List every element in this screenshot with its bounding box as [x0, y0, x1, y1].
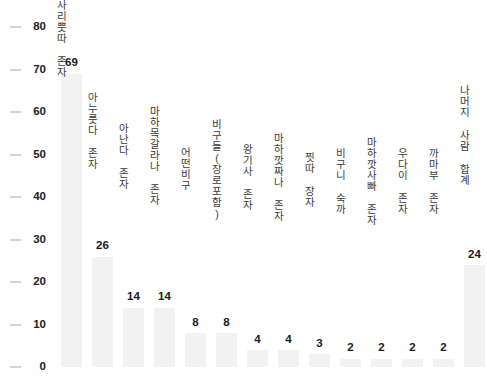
- bar[interactable]: [154, 308, 175, 368]
- plot-area: 69사리뿟따 존자26아누룻다 존자14아난다 존자14마하목갈라나 존자8어떤…: [52, 0, 487, 391]
- bar-column[interactable]: 2마하깟사빠 존자: [366, 24, 397, 367]
- y-axis-tick-mark: [10, 281, 21, 283]
- y-axis-tick-mark: [10, 26, 21, 28]
- bar-column[interactable]: 26아누룻다 존자: [87, 24, 118, 367]
- bar-chart: 01020304050607080 69사리뿟따 존자26아누룻다 존자14아난…: [0, 0, 487, 391]
- bar-column[interactable]: 69사리뿟따 존자: [56, 24, 87, 367]
- bar-value-label: 4: [242, 334, 273, 346]
- bar[interactable]: [402, 359, 423, 368]
- bar-category-label: 마하깟짜나 존자: [273, 24, 304, 331]
- y-axis-tick-mark: [10, 366, 21, 368]
- bar-value-label: 14: [118, 291, 149, 303]
- bar-value-label: 14: [149, 291, 180, 303]
- y-axis-tick-mark: [10, 324, 21, 326]
- bar[interactable]: [433, 359, 454, 368]
- bar-column[interactable]: 8비구들(장로포함): [211, 24, 242, 367]
- bar-category-label: 비구들(장로포함): [211, 24, 242, 314]
- bar-column[interactable]: 2까마부 존자: [428, 24, 459, 367]
- bar-category-label: 왕기사 존자: [242, 24, 273, 331]
- y-axis-tick: 70: [0, 63, 52, 77]
- bar[interactable]: [185, 333, 206, 367]
- bar-category-label: 어떤비구: [180, 24, 211, 314]
- bar[interactable]: [61, 74, 82, 367]
- bar-category-label: 비구니 숙까: [335, 24, 366, 340]
- bar-category-label: 마하목갈라나 존자: [149, 24, 180, 289]
- y-axis-tick: 80: [0, 20, 52, 34]
- y-axis-tick-mark: [10, 196, 21, 198]
- bar[interactable]: [123, 308, 144, 368]
- bar[interactable]: [247, 350, 268, 367]
- y-axis-tick-label: 40: [26, 191, 46, 203]
- bar-column[interactable]: 4왕기사 존자: [242, 24, 273, 367]
- bar-column[interactable]: 2우다이 존자: [397, 24, 428, 367]
- y-axis-tick: 60: [0, 105, 52, 119]
- bar[interactable]: [278, 350, 299, 367]
- bar-column[interactable]: 14마하목갈라나 존자: [149, 24, 180, 367]
- y-axis-tick-mark: [10, 154, 21, 156]
- y-axis-tick: 10: [0, 318, 52, 332]
- bar-category-label: 사리뿟따 존자: [56, 24, 87, 55]
- bar-column[interactable]: 3찟따 장자: [304, 24, 335, 367]
- bar-value-label: 26: [87, 240, 118, 252]
- y-axis-tick-label: 60: [26, 106, 46, 118]
- bar-column[interactable]: 14아난다 존자: [118, 24, 149, 367]
- bar-value-label: 8: [180, 317, 211, 329]
- bar[interactable]: [464, 265, 485, 367]
- bar-value-label: 2: [335, 342, 366, 354]
- y-axis-tick-label: 50: [26, 149, 46, 161]
- bar-category-label: 아난다 존자: [118, 24, 149, 289]
- y-axis-tick-mark: [10, 239, 21, 241]
- bar-category-label: 마하깟사빠 존자: [366, 24, 397, 340]
- bar[interactable]: [340, 359, 361, 368]
- bar-value-label: 24: [459, 249, 487, 261]
- bar[interactable]: [371, 359, 392, 368]
- y-axis-tick: 40: [0, 190, 52, 204]
- y-axis: 01020304050607080: [0, 0, 52, 391]
- bar-category-label: 우다이 존자: [397, 24, 428, 340]
- bar-category-label: 찟따 장자: [304, 24, 335, 335]
- y-axis-tick-label: 30: [26, 234, 46, 246]
- y-axis-tick-mark: [10, 69, 21, 71]
- bar-column[interactable]: 24나머지 사람 합계: [459, 24, 487, 367]
- y-axis-tick-label: 10: [26, 319, 46, 331]
- bar-category-label: 나머지 사람 합계: [459, 24, 487, 246]
- bar-value-label: 4: [273, 334, 304, 346]
- y-axis-tick: 50: [0, 148, 52, 162]
- y-axis-tick: 0: [0, 360, 52, 374]
- y-axis-tick-label: 70: [26, 64, 46, 76]
- bar-category-label: 까마부 존자: [428, 24, 459, 340]
- bar[interactable]: [216, 333, 237, 367]
- y-axis-tick-mark: [10, 111, 21, 113]
- bar-column[interactable]: 4마하깟짜나 존자: [273, 24, 304, 367]
- y-axis-tick-label: 80: [26, 21, 46, 33]
- bar[interactable]: [309, 354, 330, 367]
- y-axis-tick: 30: [0, 233, 52, 247]
- bar-value-label: 2: [397, 342, 428, 354]
- bar-value-label: 8: [211, 317, 242, 329]
- bar-value-label: 2: [428, 342, 459, 354]
- bar-column[interactable]: 2비구니 숙까: [335, 24, 366, 367]
- y-axis-tick-label: 20: [26, 276, 46, 288]
- bar-value-label: 3: [304, 338, 335, 350]
- bar-value-label: 2: [366, 342, 397, 354]
- y-axis-tick-label: 0: [26, 361, 46, 373]
- y-axis-tick: 20: [0, 275, 52, 289]
- bar-column[interactable]: 8어떤비구: [180, 24, 211, 367]
- bar[interactable]: [92, 257, 113, 368]
- bar-category-label: 아누룻다 존자: [87, 24, 118, 238]
